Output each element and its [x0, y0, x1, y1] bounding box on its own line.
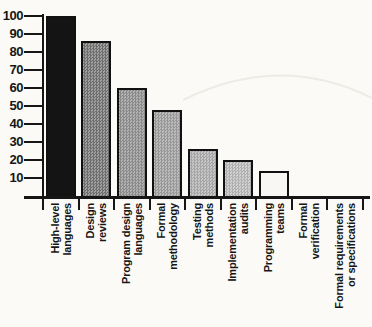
y-axis-tick — [24, 69, 44, 71]
x-axis-tick — [42, 198, 44, 210]
y-axis-tick — [24, 141, 44, 143]
x-axis-category-label: Formalmethodology — [155, 203, 179, 325]
category-label-line: teams — [274, 203, 286, 234]
x-axis-tick — [184, 198, 186, 210]
y-axis-tick — [24, 159, 44, 161]
bar-chart: 102030405060708090100High-levellanguages… — [0, 0, 372, 327]
y-axis-tick-label: 80 — [0, 44, 23, 59]
bar-2 — [81, 41, 111, 198]
category-label-line: High-level — [49, 203, 61, 254]
x-axis-category-label: Formal requirementsor specifications — [333, 203, 357, 325]
category-label-line: Design — [84, 203, 96, 238]
bar-5 — [188, 149, 218, 198]
plot-area: 102030405060708090100High-levellanguages… — [0, 0, 372, 327]
y-axis-tick — [24, 105, 44, 107]
bar-1 — [46, 16, 76, 198]
x-axis-category-label: Program designlanguages — [120, 203, 144, 325]
bar-3 — [117, 88, 147, 198]
y-axis-tick-label: 30 — [0, 134, 23, 149]
x-axis-tick — [149, 198, 151, 210]
category-label-line: or specifications — [345, 203, 357, 287]
bar-4 — [152, 110, 182, 198]
x-axis-category-label: Designreviews — [84, 203, 108, 325]
y-axis-tick-label: 20 — [0, 152, 23, 167]
y-axis-tick-label: 60 — [0, 80, 23, 95]
x-axis-category-label: Implementationaudits — [226, 203, 250, 325]
category-label-line: Formal — [155, 203, 167, 238]
y-axis-tick — [24, 15, 44, 17]
y-axis-tick-label: 50 — [0, 98, 23, 113]
x-axis-tick — [362, 198, 364, 210]
x-axis-category-label: High-levellanguages — [49, 203, 73, 325]
category-label-line: methods — [203, 203, 215, 247]
x-axis-line — [24, 196, 370, 199]
y-axis-tick — [24, 51, 44, 53]
x-axis-tick — [326, 198, 328, 210]
category-label-line: Programming — [262, 203, 274, 272]
category-label-line: Program design — [120, 203, 132, 284]
x-axis-tick — [220, 198, 222, 210]
category-label-line: Formal requirements — [333, 203, 345, 309]
y-axis-tick — [24, 177, 44, 179]
y-axis-tick-label: 100 — [0, 8, 23, 23]
x-axis-category-label: Formalverification — [297, 203, 321, 325]
category-label-line: languages — [61, 203, 73, 256]
y-axis-tick-label: 90 — [0, 26, 23, 41]
x-axis-tick — [291, 198, 293, 210]
x-axis-tick — [78, 198, 80, 210]
category-label-line: audits — [238, 203, 250, 234]
category-label-line: verification — [309, 203, 321, 259]
category-label-line: reviews — [96, 203, 108, 242]
x-axis-category-label: Testingmethods — [191, 203, 215, 325]
category-label-line: Formal — [297, 203, 309, 238]
category-label-line: Implementation — [226, 203, 238, 282]
y-axis-tick — [24, 87, 44, 89]
bar-6 — [223, 160, 253, 198]
category-label-line: languages — [132, 203, 144, 256]
category-label-line: methodology — [167, 203, 179, 270]
bar-7 — [259, 171, 289, 198]
y-axis-tick — [24, 33, 44, 35]
category-label-line: Testing — [191, 203, 203, 240]
x-axis-tick — [255, 198, 257, 210]
y-axis-tick-label: 10 — [0, 170, 23, 185]
y-axis-tick — [24, 123, 44, 125]
x-axis-category-label: Programmingteams — [262, 203, 286, 325]
y-axis-tick-label: 40 — [0, 116, 23, 131]
y-axis-tick-label: 70 — [0, 62, 23, 77]
x-axis-tick — [113, 198, 115, 210]
